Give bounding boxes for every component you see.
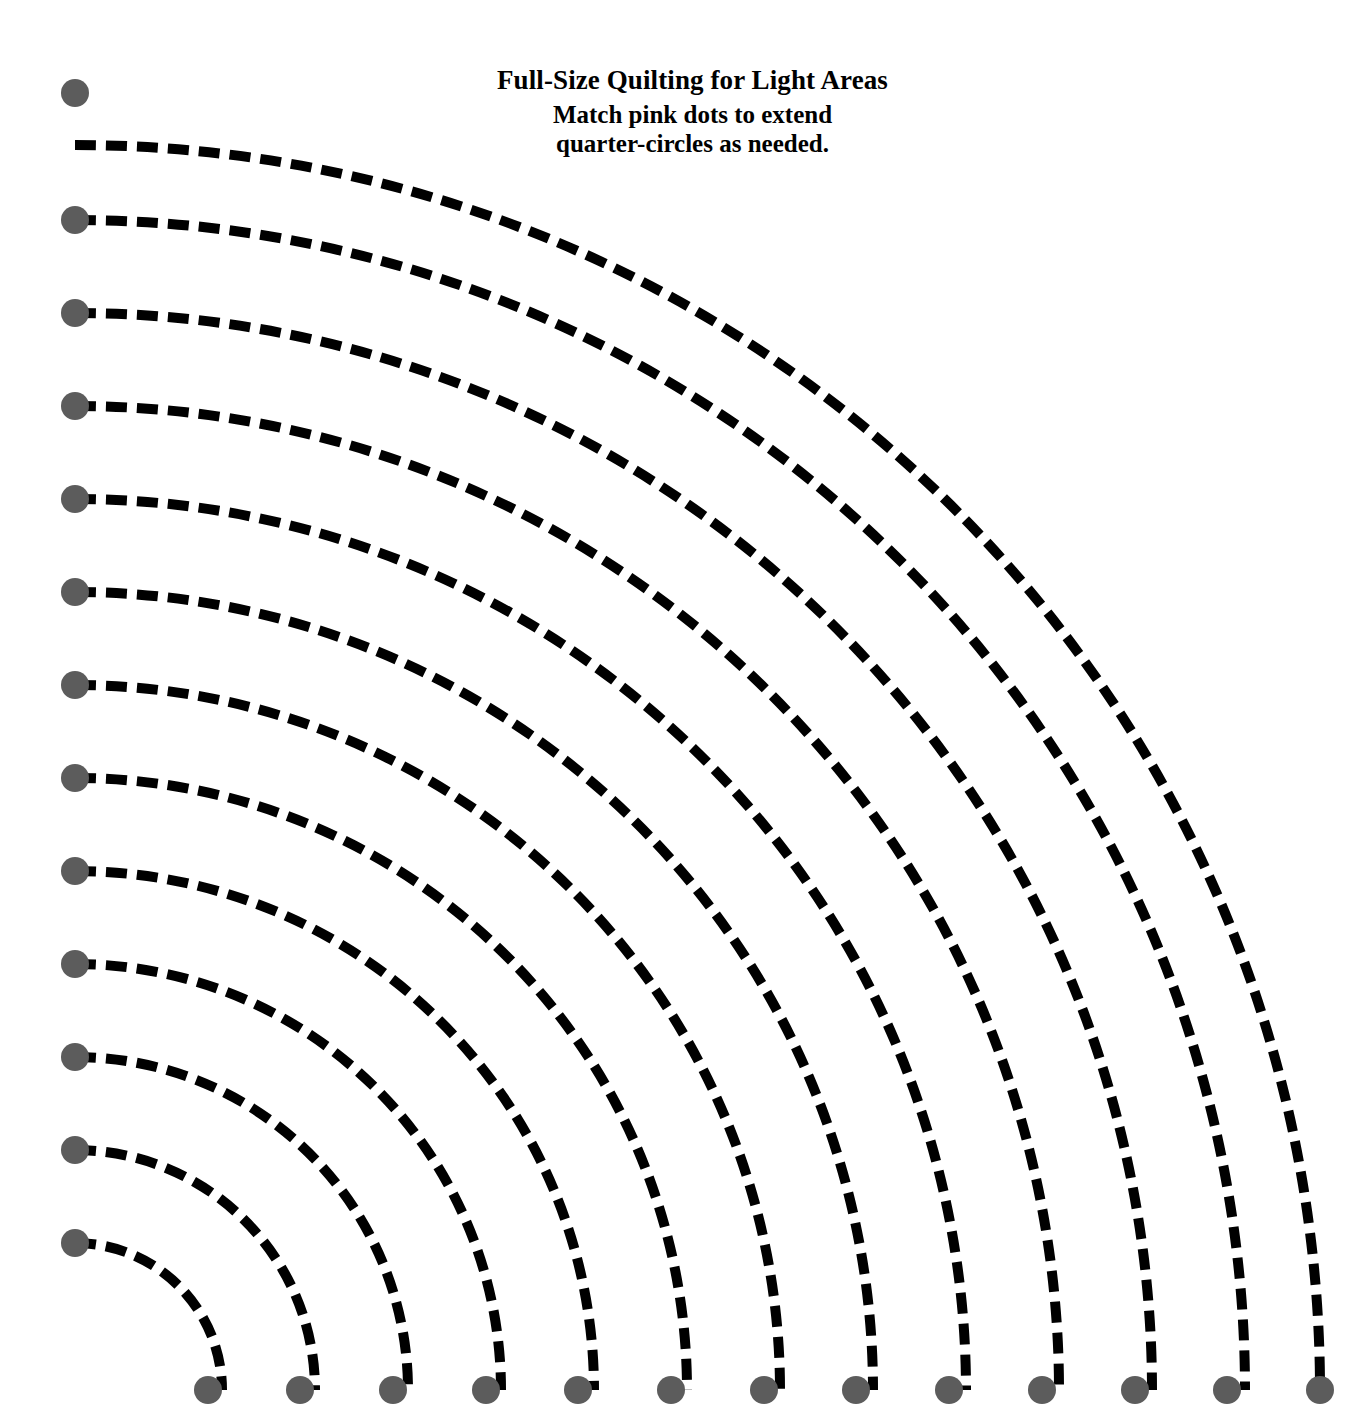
quarter-circle-arc	[75, 871, 594, 1390]
registration-dot-left	[61, 578, 89, 606]
registration-dot-left	[61, 764, 89, 792]
registration-dot-bottom	[286, 1376, 314, 1404]
registration-dot-left	[61, 1229, 89, 1257]
registration-dot-left	[61, 1043, 89, 1071]
registration-dot-bottom	[1213, 1376, 1241, 1404]
quarter-circle-arc	[75, 592, 873, 1390]
quarter-circle-arc	[75, 313, 1152, 1390]
registration-dot-left	[61, 1136, 89, 1164]
quarter-circle-arc	[75, 1243, 222, 1390]
page-title: Full-Size Quilting for Light Areas	[420, 64, 965, 96]
registration-dot-bottom	[1306, 1376, 1334, 1404]
quilting-pattern-page: Full-Size Quilting for Light Areas Match…	[0, 0, 1370, 1423]
quarter-circle-arc	[75, 778, 687, 1390]
registration-dot-bottom	[842, 1376, 870, 1404]
registration-dot-bottom	[472, 1376, 500, 1404]
quarter-circle-arc	[75, 499, 966, 1390]
quarter-circle-arc	[75, 964, 501, 1390]
registration-dot-left	[61, 950, 89, 978]
registration-dot-bottom	[194, 1376, 222, 1404]
caption-subtitle-line-2: quarter-circles as needed.	[420, 129, 965, 158]
arcs-group	[75, 145, 1320, 1390]
registration-dot-left	[61, 857, 89, 885]
registration-dot-left	[61, 299, 89, 327]
caption-subtitle-line-1: Match pink dots to extend	[420, 100, 965, 129]
registration-dot-bottom	[1028, 1376, 1056, 1404]
registration-dot-bottom	[657, 1376, 685, 1404]
registration-dot-left	[61, 206, 89, 234]
registration-dot-bottom	[379, 1376, 407, 1404]
caption-block: Full-Size Quilting for Light Areas Match…	[420, 64, 965, 158]
quarter-circle-arc	[75, 1150, 315, 1390]
quarter-circle-arc	[75, 406, 1059, 1390]
registration-dot-bottom	[935, 1376, 963, 1404]
quarter-circle-arc-diagram	[0, 0, 1370, 1423]
registration-dot-left	[61, 79, 89, 107]
registration-dot-left	[61, 485, 89, 513]
registration-dot-bottom	[564, 1376, 592, 1404]
registration-dot-left	[61, 392, 89, 420]
registration-dot-bottom	[750, 1376, 778, 1404]
registration-dot-left	[61, 671, 89, 699]
registration-dot-bottom	[1121, 1376, 1149, 1404]
caption-subtitle: Match pink dots to extend quarter-circle…	[420, 100, 965, 158]
